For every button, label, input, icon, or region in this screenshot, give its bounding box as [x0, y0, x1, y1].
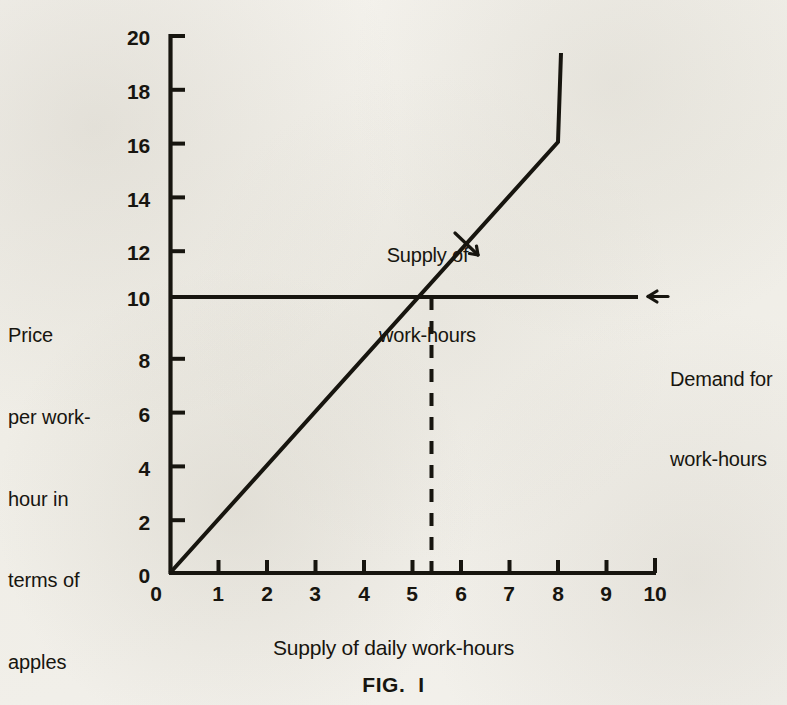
supply-annotation-line-1: Supply of	[379, 242, 476, 269]
x-tick-label-9: 9	[591, 580, 621, 607]
y-tick-label-14: 14	[104, 186, 150, 213]
y-tick-label-20: 20	[104, 24, 150, 51]
x-axis-title: Supply of daily work-hours	[0, 634, 787, 661]
supply-curve	[170, 53, 561, 573]
supply-annotation-line-2: work-hours	[379, 322, 476, 349]
y-tick-label-10: 10	[104, 285, 150, 312]
figure-supply-demand-work-hours: 20 18 16 14 12 10 8 6 4 2 0 0 1 2 3 4 5 …	[0, 0, 787, 705]
x-tick-label-10: 10	[640, 580, 670, 607]
demand-annotation-line-1: Demand for	[670, 366, 773, 393]
x-tick-label-0: 0	[141, 580, 171, 607]
y-tick-label-16: 16	[104, 132, 150, 159]
supply-curve-annotation: Supply of work-hours	[379, 188, 476, 402]
y-axis-title-line-2: per work-	[8, 404, 90, 431]
demand-annotation-line-2: work-hours	[670, 446, 773, 473]
x-tick-label-4: 4	[349, 580, 379, 607]
y-tick-label-18: 18	[104, 78, 150, 105]
x-tick-label-5: 5	[397, 580, 427, 607]
figure-caption: FIG. I	[0, 671, 787, 698]
x-tick-label-7: 7	[494, 580, 524, 607]
y-axis-title-line-4: terms of	[8, 567, 90, 594]
demand-curve-annotation: Demand for work-hours	[670, 312, 773, 526]
demand-pointer-arrow	[648, 291, 668, 302]
y-tick-label-2: 2	[104, 509, 150, 536]
y-tick-label-6: 6	[104, 401, 150, 428]
x-axis-ticks	[219, 558, 656, 573]
y-tick-label-12: 12	[104, 239, 150, 266]
x-tick-label-6: 6	[446, 580, 476, 607]
x-tick-label-3: 3	[300, 580, 330, 607]
y-tick-label-4: 4	[104, 455, 150, 482]
x-tick-label-2: 2	[252, 580, 282, 607]
y-tick-label-8: 8	[104, 347, 150, 374]
y-axis-title-line-3: hour in	[8, 486, 90, 513]
y-axis-title-line-1: Price	[8, 322, 90, 349]
x-tick-label-8: 8	[543, 580, 573, 607]
x-tick-label-1: 1	[203, 580, 233, 607]
